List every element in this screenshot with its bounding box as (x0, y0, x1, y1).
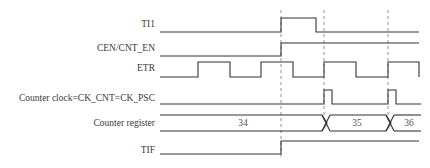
label-etr: ETR (137, 63, 156, 73)
waveform-cen (160, 43, 419, 56)
waveform-etr (160, 62, 419, 77)
label-cen: CEN/CNT_EN (97, 43, 155, 53)
waveform-counter-clock (160, 90, 421, 104)
signal-labels: TI1 CEN/CNT_EN ETR Counter clock=CK_CNT=… (19, 19, 156, 155)
timing-diagram: TI1 CEN/CNT_EN ETR Counter clock=CK_CNT=… (0, 0, 430, 168)
label-counter-clock: Counter clock=CK_CNT=CK_PSC (19, 93, 155, 103)
counter-value-34: 34 (238, 118, 248, 128)
waveform-tif (160, 141, 419, 154)
waveform-ti1 (160, 18, 419, 32)
label-counter-register: Counter register (94, 118, 156, 128)
counter-value-36: 36 (404, 118, 414, 128)
label-ti1: TI1 (141, 19, 155, 29)
counter-value-35: 35 (352, 118, 362, 128)
label-tif: TIF (141, 145, 155, 155)
waveform-counter-register: 34 35 36 (160, 115, 421, 131)
